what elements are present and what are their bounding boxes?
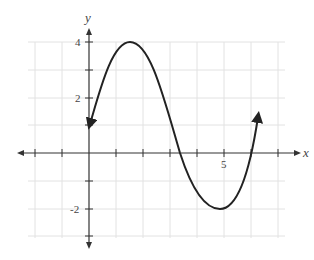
function-graph: y x 5 4 2 -2	[0, 0, 314, 260]
grid	[28, 42, 285, 238]
y-axis-down-arrow-icon	[86, 242, 92, 249]
y-tick-label-4: 4	[75, 36, 81, 48]
y-tick-label-neg2: -2	[70, 203, 79, 215]
x-tick-label-5: 5	[221, 158, 227, 170]
x-axis-left-arrow-icon	[17, 150, 24, 156]
x-axis-label: x	[302, 145, 309, 160]
y-axis-label: y	[83, 10, 91, 25]
x-axis-right-arrow-icon	[294, 150, 301, 156]
y-tick-label-2: 2	[75, 92, 81, 104]
y-axis-up-arrow-icon	[86, 28, 92, 35]
